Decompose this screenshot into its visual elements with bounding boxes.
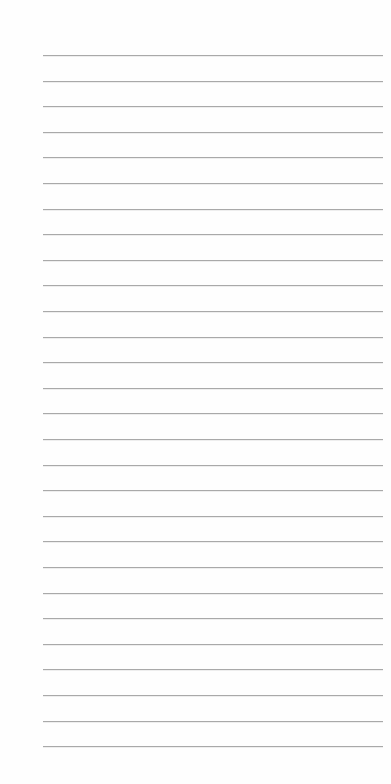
ruled-line (43, 106, 383, 107)
ruled-line (43, 490, 383, 491)
ruled-line (43, 337, 383, 338)
ruled-line (43, 388, 383, 389)
lined-paper-page (0, 0, 391, 784)
ruled-line (43, 567, 383, 568)
ruled-line (43, 465, 383, 466)
ruled-line (43, 311, 383, 312)
ruled-line (43, 55, 383, 56)
ruled-line (43, 593, 383, 594)
ruled-line (43, 516, 383, 517)
ruled-line (43, 81, 383, 82)
ruled-line (43, 439, 383, 440)
ruled-line (43, 721, 383, 722)
ruled-line (43, 746, 383, 747)
ruled-line (43, 362, 383, 363)
ruled-line (43, 209, 383, 210)
ruled-line (43, 413, 383, 414)
ruled-line (43, 183, 383, 184)
ruled-line (43, 260, 383, 261)
ruled-line (43, 541, 383, 542)
ruled-line (43, 234, 383, 235)
ruled-line (43, 132, 383, 133)
ruled-line (43, 669, 383, 670)
ruled-line (43, 285, 383, 286)
ruled-line (43, 618, 383, 619)
ruled-line (43, 644, 383, 645)
ruled-line (43, 695, 383, 696)
ruled-line (43, 157, 383, 158)
